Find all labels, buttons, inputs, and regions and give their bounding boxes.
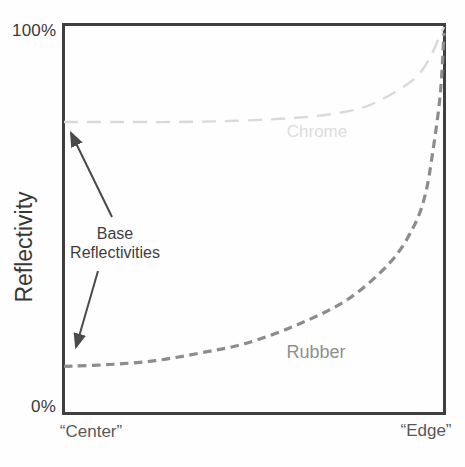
annotation-line-2: Reflectivities	[53, 243, 177, 262]
chrome-curve	[64, 27, 444, 122]
chrome-series-label: Chrome	[277, 122, 357, 142]
annotation-arrow-to-rubber	[76, 271, 98, 347]
annotation-arrow-to-chrome	[71, 133, 112, 217]
base-reflectivities-annotation: Base Reflectivities	[53, 224, 177, 262]
rubber-series-label: Rubber	[276, 342, 356, 363]
x-tick-edge: “Edge”	[390, 421, 462, 441]
x-tick-center: “Center”	[50, 422, 132, 442]
y-tick-0: 0%	[12, 397, 56, 417]
axis-frame	[64, 25, 445, 414]
y-tick-100: 100%	[12, 21, 56, 41]
annotation-line-1: Base	[53, 224, 177, 243]
rubber-curve	[64, 33, 444, 367]
reflectivity-figure: 100% 0% Reflectivity “Center” “Edge” Bas…	[0, 0, 465, 467]
y-axis-label: Reflectivity	[11, 162, 43, 332]
